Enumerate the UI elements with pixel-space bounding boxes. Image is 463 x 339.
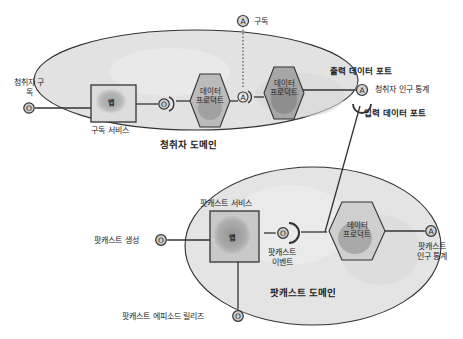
podcast-app-label: 앱 [229,232,235,242]
listener-app-label: 앱 [108,97,114,107]
podcast-domain-label: 팟캐스트 도메인 [270,288,336,298]
podcast-data-product-label: 데이터 프로덕트 [337,221,377,239]
podcast-episode-release-label: 팟캐스트 에피소드 릴리즈 [122,312,204,322]
listener-data-product-2-label: 데이터 프로덕트 [264,79,304,97]
port-letter-a: A [359,86,365,95]
port-letter-o: O [235,312,241,321]
listener-domain-label: 청취자 도메인 [160,140,217,150]
listener-demographics-label: 청취자 인구 통계 [375,85,429,95]
podcast-create-label: 팟캐스트 생성 [94,236,139,246]
port-letter-o: O [158,236,164,245]
listener-data-product-1-label: 데이터 프로덕트 [190,87,230,105]
subscription-service-label: 구독 서비스 [91,126,129,136]
port-letter-a: A [240,93,246,102]
port-letter-a: A [428,227,434,236]
output-data-port-caption: 출력 데이터 포트 [330,66,392,76]
listener-subscribe-label: 청취자 구독 [12,78,46,98]
port-letter-o: O [26,104,32,113]
subscription-output-label: 구독 [254,17,268,27]
port-letter-a: A [240,17,246,26]
input-data-port-caption: 입력 데이터 포트 [364,108,426,118]
podcast-demographics-label: 팟캐스트 인구 통계 [412,242,452,262]
podcast-event-label: 팟캐스트 이벤트 [262,248,302,268]
port-letter-o: O [280,229,286,238]
port-letter-o: O [161,100,167,109]
podcast-service-label: 팟캐스트 서비스 [200,199,252,209]
